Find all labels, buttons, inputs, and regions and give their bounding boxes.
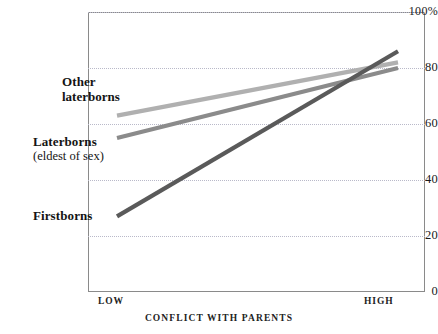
plot-area xyxy=(88,12,425,292)
series-label-first-line1: Firstborns xyxy=(33,208,93,223)
series-label-later-line2: (eldest of sex) xyxy=(33,149,104,164)
series-label-other-laterborns: Other laterborns xyxy=(62,74,120,105)
x-axis-tick-high: HIGH xyxy=(364,296,393,306)
x-axis-title: CONFLICT WITH PARENTS xyxy=(0,313,438,323)
y-axis-tick-80: 80 xyxy=(364,60,438,75)
series-label-other-line2: laterborns xyxy=(62,89,120,104)
x-axis-tick-low: LOW xyxy=(98,296,124,306)
series-label-later-line1: Laterborns xyxy=(33,134,97,149)
y-axis-tick-40: 40 xyxy=(364,172,438,187)
series-label-other-line1: Other xyxy=(62,74,96,89)
line-chart: 100% 80 60 40 20 0 Other laterborns Late… xyxy=(0,0,438,334)
series-label-laterborns: Laterborns (eldest of sex) xyxy=(33,134,104,164)
y-axis-tick-100: 100% xyxy=(364,4,438,19)
series-label-firstborns: Firstborns xyxy=(33,208,93,223)
y-axis-tick-20: 20 xyxy=(364,228,438,243)
y-axis-tick-60: 60 xyxy=(364,116,438,131)
